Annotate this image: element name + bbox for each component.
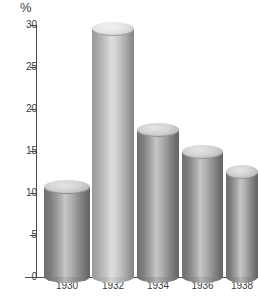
- bar-top-cap: [226, 165, 258, 179]
- bar-body: [137, 130, 179, 277]
- y-tick-25: 25: [0, 67, 37, 68]
- bar-1938: [226, 165, 258, 277]
- bar-top-cap: [182, 145, 223, 159]
- y-tick-10: 10: [0, 193, 37, 194]
- bar-1934: [137, 123, 179, 277]
- y-tick-30: 30: [0, 25, 37, 26]
- y-tick-mark: [30, 235, 37, 236]
- y-tick-15: 15: [0, 151, 37, 152]
- y-tick-5: 5: [0, 235, 37, 236]
- y-tick-mark: [30, 67, 37, 68]
- bar-body: [182, 152, 223, 277]
- bar-1936: [182, 145, 223, 277]
- bar-1932: [92, 22, 134, 277]
- y-tick-mark: [30, 193, 37, 194]
- chart-figure: % 051015202530 19301932193419361938: [0, 0, 258, 297]
- bar-top-cap: [137, 123, 179, 137]
- y-tick-mark: [30, 277, 37, 278]
- y-tick-mark: [30, 109, 37, 110]
- bar-1930: [44, 180, 90, 277]
- y-tick-mark: [30, 151, 37, 152]
- bar-body: [226, 172, 258, 277]
- y-tick-0: 0: [0, 277, 37, 278]
- y-tick-20: 20: [0, 109, 37, 110]
- plot-area: 051015202530 19301932193419361938: [0, 0, 258, 297]
- bar-body: [92, 29, 134, 277]
- y-tick-mark: [30, 25, 37, 26]
- bar-body: [44, 187, 90, 277]
